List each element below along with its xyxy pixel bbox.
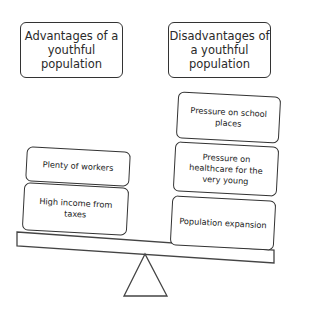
fulcrum-triangle — [124, 254, 167, 296]
advantages-header: Advantages of a youthful population — [20, 22, 123, 78]
disadvantages-header-text: Disadvantages of a youthful population — [169, 29, 270, 71]
advantages-header-text: Advantages of a youthful population — [21, 29, 122, 71]
disadvantage-population-expansion: Population expansion — [170, 195, 276, 250]
disadvantage-pressure-on-healthcare: Pressure on healthcare for the very youn… — [173, 141, 279, 196]
disadvantage-pressure-on-school-places: Pressure on school places — [176, 91, 281, 143]
disadvantages-header: Disadvantages of a youthful population — [168, 22, 271, 78]
advantage-plenty-of-workers: Plenty of workers — [25, 146, 131, 186]
advantage-high-income-from-taxes: High income from taxes — [22, 182, 129, 235]
